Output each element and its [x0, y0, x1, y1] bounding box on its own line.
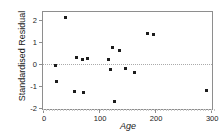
x-minor-tick	[100, 109, 101, 111]
x-minor-tick	[200, 109, 201, 111]
scatter-plot-figure: Standardised Residual 210-1-2 0100200300…	[0, 0, 221, 134]
data-point	[64, 16, 67, 19]
x-minor-tick	[103, 109, 104, 111]
x-minor-tick	[146, 109, 147, 111]
data-point	[152, 33, 155, 36]
y-axis-title: Standardised Residual	[17, 0, 27, 115]
x-minor-tick	[111, 109, 112, 111]
x-minor-tick	[69, 109, 70, 111]
x-minor-tick	[154, 109, 155, 111]
x-minor-tick	[97, 109, 98, 111]
x-minor-tick	[54, 109, 55, 111]
x-minor-tick	[94, 109, 95, 111]
x-minor-tick	[211, 109, 212, 111]
x-minor-tick	[191, 109, 192, 111]
x-minor-tick	[151, 109, 152, 111]
x-minor-tick	[80, 109, 81, 111]
x-minor-tick	[57, 109, 58, 111]
x-minor-tick	[197, 109, 198, 111]
x-minor-tick	[46, 109, 47, 111]
x-minor-tick	[43, 109, 44, 111]
data-point	[54, 64, 57, 67]
x-minor-tick	[123, 109, 124, 111]
x-minor-tick	[171, 109, 172, 111]
x-minor-tick	[174, 109, 175, 111]
y-tick-label: 1	[33, 38, 37, 47]
data-point	[107, 58, 110, 61]
y-tick: 2	[39, 20, 43, 21]
x-minor-tick	[208, 109, 209, 111]
x-minor-tick	[194, 109, 195, 111]
x-minor-tick	[188, 109, 189, 111]
y-tick: 0	[39, 64, 43, 65]
x-minor-tick	[177, 109, 178, 111]
plot-area: 210-1-2 0100200300	[42, 11, 213, 110]
x-minor-tick	[143, 109, 144, 111]
x-minor-tick	[129, 109, 130, 111]
x-minor-tick	[49, 109, 50, 111]
x-minor-tick	[131, 109, 132, 111]
data-point	[111, 46, 114, 49]
y-tick-label: -1	[30, 82, 37, 91]
x-minor-tick	[77, 109, 78, 111]
data-point	[109, 68, 112, 71]
y-tick: -1	[39, 86, 43, 87]
data-point	[205, 89, 208, 92]
data-point	[75, 56, 78, 59]
y-tick-label: 0	[33, 60, 37, 69]
x-minor-tick	[114, 109, 115, 111]
x-minor-tick	[140, 109, 141, 111]
x-minor-tick	[214, 109, 215, 111]
x-axis-title: Age	[42, 121, 214, 131]
x-minor-tick	[120, 109, 121, 111]
y-tick-label: -2	[30, 104, 37, 113]
x-minor-tick	[180, 109, 181, 111]
y-tick-label: 2	[33, 16, 37, 25]
data-point	[55, 80, 58, 83]
x-minor-tick	[160, 109, 161, 111]
data-point	[81, 58, 84, 61]
data-point	[133, 71, 136, 74]
x-minor-tick	[183, 109, 184, 111]
x-minor-tick	[86, 109, 87, 111]
x-minor-tick	[109, 109, 110, 111]
x-minor-tick	[74, 109, 75, 111]
x-minor-tick	[72, 109, 73, 111]
x-minor-tick	[137, 109, 138, 111]
x-minor-tick	[166, 109, 167, 111]
x-minor-tick	[203, 109, 204, 111]
x-minor-tick	[126, 109, 127, 111]
x-minor-tick	[83, 109, 84, 111]
x-minor-tick	[157, 109, 158, 111]
data-point	[146, 32, 149, 35]
x-minor-tick	[134, 109, 135, 111]
x-minor-tick	[163, 109, 164, 111]
x-minor-tick	[186, 109, 187, 111]
x-minor-tick	[106, 109, 107, 111]
x-minor-tick	[205, 109, 206, 111]
x-minor-tick	[117, 109, 118, 111]
x-minor-tick	[60, 109, 61, 111]
data-point	[118, 49, 121, 52]
data-point	[73, 90, 76, 93]
zero-reference-line	[43, 64, 212, 65]
data-point	[113, 100, 116, 103]
data-point	[82, 91, 85, 94]
x-minor-tick	[148, 109, 149, 111]
x-minor-tick	[63, 109, 64, 111]
data-point	[124, 67, 127, 70]
x-minor-tick	[52, 109, 53, 111]
x-minor-tick	[66, 109, 67, 111]
data-point	[86, 57, 89, 60]
x-tick: 200	[155, 109, 156, 113]
x-minor-tick	[89, 109, 90, 111]
x-minor-tick	[91, 109, 92, 111]
y-tick: 1	[39, 42, 43, 43]
x-minor-tick	[168, 109, 169, 111]
